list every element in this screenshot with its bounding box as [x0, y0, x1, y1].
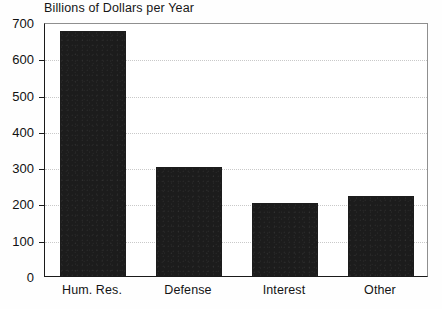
plot-area [44, 23, 428, 277]
y-axis-label-0: 0 [0, 270, 34, 285]
chart-title: Billions of Dollars per Year [44, 1, 194, 15]
y-axis-label-700: 700 [0, 16, 34, 31]
y-tick-100 [39, 242, 45, 243]
bar-hum-res [60, 31, 126, 276]
y-axis-label-500: 500 [0, 88, 34, 103]
y-axis-label-300: 300 [0, 161, 34, 176]
y-tick-600 [39, 60, 45, 61]
x-axis-label-interest: Interest [263, 283, 306, 297]
y-axis-label-600: 600 [0, 52, 34, 67]
y-tick-300 [39, 169, 45, 170]
bar-interest [252, 203, 318, 276]
y-axis-label-200: 200 [0, 197, 34, 212]
x-axis-label-hum-res: Hum. Res. [62, 283, 122, 297]
y-tick-500 [39, 97, 45, 98]
y-tick-200 [39, 205, 45, 206]
x-axis-label-defense: Defense [164, 283, 211, 297]
bar-other [348, 196, 414, 276]
x-axis-label-other: Other [364, 283, 396, 297]
bar-chart-figure: Billions of Dollars per Year 01002003004… [0, 0, 442, 309]
y-tick-400 [39, 133, 45, 134]
y-axis-label-400: 400 [0, 124, 34, 139]
bar-defense [156, 167, 222, 276]
y-axis-label-100: 100 [0, 233, 34, 248]
